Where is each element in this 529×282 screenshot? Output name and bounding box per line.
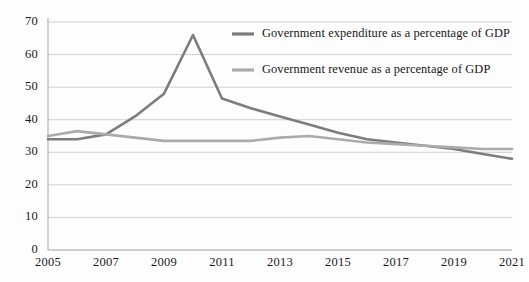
series-line-revenue [48,131,512,149]
x-tick-label-2009: 2009 [141,255,187,270]
legend-label-expenditure: Government expenditure as a percentage o… [262,26,510,41]
y-tick-label-50: 50 [4,79,38,94]
y-tick-label-60: 60 [4,47,38,62]
x-tick-label-2015: 2015 [315,255,361,270]
y-tick-label-10: 10 [4,209,38,224]
x-tick-label-2005: 2005 [25,255,71,270]
x-tick-label-2007: 2007 [83,255,129,270]
y-tick-label-30: 30 [4,144,38,159]
series-line-expenditure [48,35,512,159]
y-tick-label-20: 20 [4,177,38,192]
y-tick-label-40: 40 [4,112,38,127]
legend-swatch-group [232,34,254,70]
legend-label-revenue: Government revenue as a percentage of GD… [262,62,490,77]
x-tick-label-2019: 2019 [431,255,477,270]
axis-lines-group [48,18,512,250]
x-tick-label-2021: 2021 [489,255,529,270]
x-tick-label-2011: 2011 [199,255,245,270]
data-series-group [48,35,512,159]
x-tick-label-2017: 2017 [373,255,419,270]
y-tick-label-70: 70 [4,14,38,29]
x-tick-label-2013: 2013 [257,255,303,270]
